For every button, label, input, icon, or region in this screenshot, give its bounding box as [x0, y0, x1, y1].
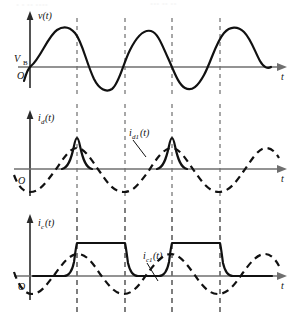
panel2-y-axis-suffix: (t) [45, 112, 55, 124]
panel3-annotation-suffix: (t) [153, 250, 163, 262]
svg-text:• • •• ••••: • • •• •••• [16, 0, 48, 10]
panel2-x-axis-label: t [281, 173, 284, 184]
panel3-origin-label: O [18, 281, 25, 292]
panel2-origin-label: O [18, 175, 25, 186]
panel2-annotation-suffix: (t) [140, 127, 150, 139]
panel1-origin-label: O [17, 70, 24, 81]
panel3-annotation-sublabel: c1 [146, 256, 153, 264]
figure-svg: • • •• •••• ••• •• •• v(t) t V B O [0, 0, 295, 324]
panel3-y-axis-suffix: (t) [45, 217, 55, 229]
svg-text:••• •• ••: ••• •• •• [150, 0, 177, 9]
panel3-x-axis-label: t [281, 280, 284, 291]
waveform-figure: • • •• •••• ••• •• •• v(t) t V B O [0, 0, 295, 324]
panel2-annotation-sublabel: d1 [132, 133, 139, 141]
panel1-y-axis-label: v(t) [38, 10, 53, 22]
panel1-level-sublabel: B [23, 59, 28, 67]
panel1-x-axis-label: t [281, 71, 284, 82]
